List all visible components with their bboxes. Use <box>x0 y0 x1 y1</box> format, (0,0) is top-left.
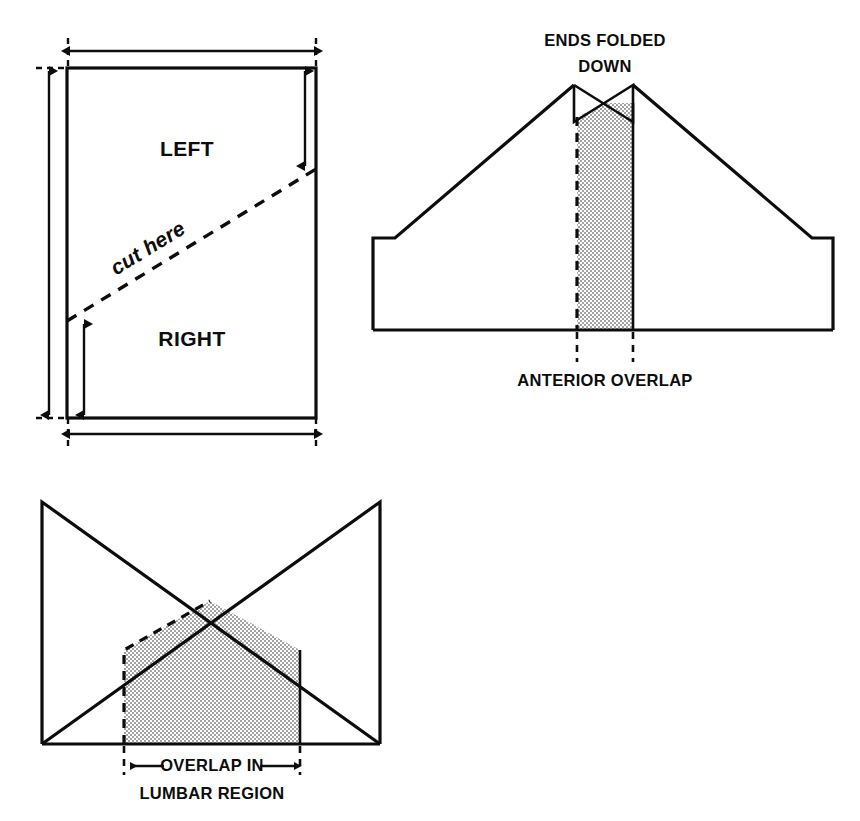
label-ends-folded-down: DOWN <box>578 57 631 75</box>
anterior-overlap-shading <box>577 117 633 330</box>
label-left: LEFT <box>160 137 214 160</box>
label-cut-here: cut here <box>106 216 189 279</box>
panel-lumbar: OVERLAP IN LUMBAR REGION <box>42 502 380 802</box>
panel-anterior: ENDS FOLDED DOWN ANTERIOR OVERLAP <box>373 31 833 389</box>
body-outline-left <box>373 85 574 330</box>
label-lumbar-region: LUMBAR REGION <box>139 784 284 802</box>
body-outline-right <box>633 85 833 330</box>
sheet-rectangle <box>67 68 316 418</box>
cut-line-dashed <box>67 169 316 321</box>
diagram-canvas: LEFT RIGHT cut here ENDS FO <box>0 0 860 821</box>
figure-root: LEFT RIGHT cut here ENDS FO <box>0 0 860 821</box>
panel-sheet: LEFT RIGHT cut here <box>36 38 316 448</box>
label-overlap-in: OVERLAP IN <box>160 756 264 774</box>
label-ends-folded: ENDS FOLDED <box>544 31 666 49</box>
label-right: RIGHT <box>158 327 225 350</box>
label-anterior-overlap: ANTERIOR OVERLAP <box>517 371 692 389</box>
